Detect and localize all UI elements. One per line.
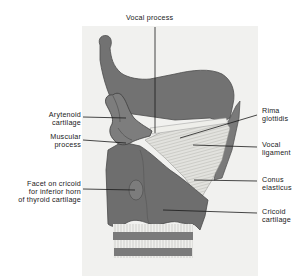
larynx-illustration <box>0 0 305 279</box>
label-vocal-process: Vocal process <box>126 14 173 22</box>
label-conus-elasticus: Conus elasticus <box>262 176 292 192</box>
larynx-diagram: Vocal process Arytenoid cartilage Muscul… <box>0 0 305 279</box>
trachea <box>113 224 193 258</box>
label-cricoid-cartilage: Cricoid cartilage <box>262 208 291 224</box>
label-facet-on-cricoid: Facet on cricoid for inferior horn of th… <box>18 180 81 204</box>
label-rima-glottidis: Rima glottidis <box>262 107 288 123</box>
label-vocal-ligament: Vocal ligament <box>262 141 291 157</box>
label-muscular-process: Muscular process <box>50 133 81 149</box>
label-arytenoid-cartilage: Arytenoid cartilage <box>49 111 81 127</box>
